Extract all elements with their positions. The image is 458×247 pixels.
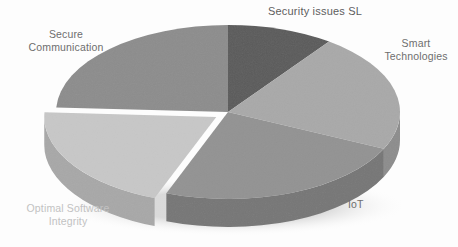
slice-label-secure-communication: Secure Communication	[6, 28, 126, 54]
slice-label-optimal-software-integrity: Optimal Software Integrity	[8, 202, 128, 228]
slice-label-iot: IoT	[348, 198, 388, 211]
slice-label-smart-technologies: Smart Technologies	[376, 37, 456, 63]
pie-chart-figure: Security issues SL Smart Technologies Io…	[0, 0, 458, 247]
chart-title: Security issues SL	[268, 5, 368, 18]
